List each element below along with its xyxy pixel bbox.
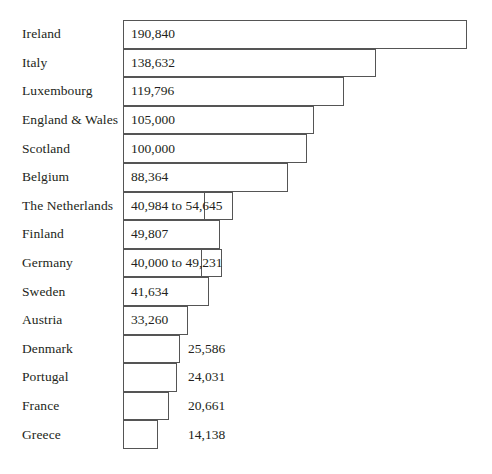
chart-row: Austria33,260 [0,306,492,335]
bar-value-label: 88,364 [131,163,168,192]
category-label: Austria [22,306,62,335]
bar [123,363,177,392]
bar [123,392,169,421]
bar-value-label: 40,984 to 54,645 [131,192,223,221]
chart-row: The Netherlands40,984 to 54,645 [0,192,492,221]
chart-row: Ireland190,840 [0,20,492,49]
chart-row: Denmark25,586 [0,335,492,364]
category-label: Finland [22,220,64,249]
horizontal-bar-chart: Ireland190,840Italy138,632Luxembourg119,… [0,0,492,474]
bar [123,335,180,364]
bar-value-label: 40,000 to 49,231 [131,249,223,278]
category-label: Italy [22,49,47,78]
bar-value-label: 119,796 [131,77,174,106]
bar-value-label: 24,031 [188,363,225,392]
bar-value-label: 105,000 [131,106,175,135]
category-label: Ireland [22,20,61,49]
bar [123,420,158,449]
chart-row: Greece14,138 [0,420,492,449]
chart-row: England & Wales105,000 [0,106,492,135]
bar-value-label: 100,000 [131,134,175,163]
chart-row: Germany40,000 to 49,231 [0,249,492,278]
bar-value-label: 25,586 [188,335,225,364]
category-label: Greece [22,420,61,449]
category-label: England & Wales [22,106,118,135]
chart-row: Sweden41,634 [0,277,492,306]
chart-row: Luxembourg119,796 [0,77,492,106]
category-label: Denmark [22,335,73,364]
bar-value-label: 138,632 [131,49,175,78]
bar-value-label: 49,807 [131,220,168,249]
chart-row: Italy138,632 [0,49,492,78]
category-label: Luxembourg [22,77,93,106]
bar-value-label: 41,634 [131,277,168,306]
category-label: Portugal [22,363,69,392]
chart-row: Belgium88,364 [0,163,492,192]
chart-row: Scotland100,000 [0,134,492,163]
category-label: The Netherlands [22,192,113,221]
category-label: Sweden [22,277,65,306]
chart-row: Finland49,807 [0,220,492,249]
category-label: France [22,392,59,421]
chart-row: France20,661 [0,392,492,421]
bar-value-label: 33,260 [131,306,168,335]
category-label: Germany [22,249,73,278]
category-label: Belgium [22,163,69,192]
bar-value-label: 14,138 [188,420,225,449]
chart-row: Portugal24,031 [0,363,492,392]
bar-value-label: 190,840 [131,20,175,49]
bar-value-label: 20,661 [188,392,225,421]
category-label: Scotland [22,134,70,163]
